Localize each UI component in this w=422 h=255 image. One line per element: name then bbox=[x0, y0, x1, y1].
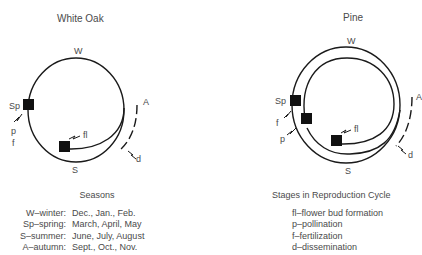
pine-stage-fl: fl bbox=[354, 124, 359, 134]
seasons-row: Sp–spring: March, April, May bbox=[12, 219, 182, 231]
pine-stage-f: f bbox=[276, 118, 279, 128]
stages-legend: Stages in Reproduction Cycle fl–flower b… bbox=[280, 190, 422, 254]
white-oak-label-winter: W bbox=[74, 46, 83, 56]
pine-pollination-marker bbox=[301, 113, 312, 124]
pine-diagram: Pine W Sp S A f p fl d bbox=[275, 12, 422, 176]
pine-title: Pine bbox=[343, 12, 363, 23]
white-oak-d-pointer-icon bbox=[128, 151, 136, 159]
pine-spring-marker bbox=[290, 95, 301, 106]
pine-f-pointer-icon bbox=[284, 111, 291, 118]
stage-row: fl–flower bud formation bbox=[280, 208, 422, 220]
white-oak-title: White Oak bbox=[57, 13, 105, 24]
season-months: March, April, May bbox=[72, 219, 142, 231]
pine-flower-bud-marker bbox=[331, 135, 342, 146]
pine-label-autumn: A bbox=[416, 92, 422, 102]
white-oak-label-spring: Sp bbox=[9, 101, 20, 111]
stage-row: d–dissemination bbox=[280, 242, 422, 254]
seasons-legend-title: Seasons bbox=[12, 190, 182, 202]
white-oak-year-circle bbox=[28, 58, 124, 162]
season-key: Sp–spring: bbox=[12, 219, 72, 231]
season-months: Dec., Jan., Feb. bbox=[72, 208, 136, 220]
white-oak-label-autumn: A bbox=[143, 97, 149, 107]
season-key: A–autumn: bbox=[12, 242, 72, 254]
white-oak-pf-pointer-icon bbox=[14, 114, 22, 122]
season-key: W–winter: bbox=[12, 208, 72, 220]
pine-year1-circle bbox=[292, 47, 400, 163]
white-oak-stage-f: f bbox=[12, 138, 15, 148]
white-oak-stage-p: p bbox=[11, 126, 16, 136]
pine-d-pointer-icon bbox=[398, 146, 406, 154]
white-oak-label-summer: S bbox=[72, 165, 78, 175]
white-oak-flower-bud-marker bbox=[59, 141, 70, 152]
white-oak-fl-pointer-icon bbox=[69, 136, 80, 139]
white-oak-stage-d: d bbox=[136, 154, 141, 164]
seasons-legend: Seasons W–winter: Dec., Jan., Feb. Sp–sp… bbox=[12, 190, 182, 254]
seasons-row: A–autumn: Sept., Oct., Nov. bbox=[12, 242, 182, 254]
stages-legend-title: Stages in Reproduction Cycle bbox=[272, 190, 422, 202]
season-months: Sept., Oct., Nov. bbox=[72, 242, 137, 254]
white-oak-spring-marker bbox=[23, 99, 34, 110]
seasons-row: S–summer: June, July, August bbox=[12, 231, 182, 243]
pine-p-pointer-icon bbox=[287, 128, 296, 135]
season-months: June, July, August bbox=[72, 231, 144, 243]
pine-fl-pointer-icon bbox=[341, 130, 351, 133]
pine-label-spring: Sp bbox=[275, 96, 286, 106]
stage-row: p–pollination bbox=[280, 219, 422, 231]
pine-label-summer: S bbox=[345, 166, 351, 176]
stage-row: f–fertilization bbox=[280, 231, 422, 243]
pine-stage-p: p bbox=[280, 134, 285, 144]
white-oak-diagram: White Oak W Sp S A p f fl d bbox=[9, 13, 149, 175]
seasons-row: W–winter: Dec., Jan., Feb. bbox=[12, 208, 182, 220]
white-oak-autumn-arc bbox=[120, 105, 137, 150]
season-key: S–summer: bbox=[12, 231, 72, 243]
pine-stage-d: d bbox=[408, 150, 413, 160]
pine-label-winter: W bbox=[347, 36, 356, 46]
white-oak-second-year-arc bbox=[68, 108, 124, 149]
white-oak-stage-fl: fl bbox=[83, 130, 88, 140]
